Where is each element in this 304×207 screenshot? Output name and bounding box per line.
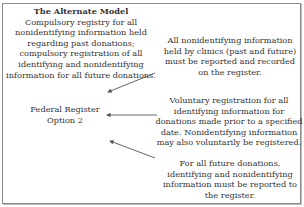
arrows [0,0,304,207]
arrow-icon [108,73,155,92]
arrow-icon [110,141,155,158]
